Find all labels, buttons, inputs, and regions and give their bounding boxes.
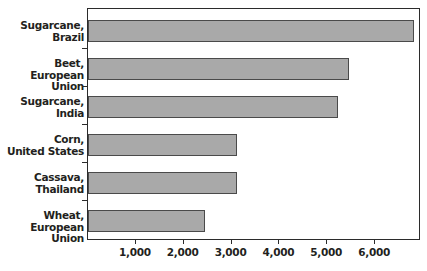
- category-label-cassava-thailand: Cassava, Thailand: [0, 172, 84, 195]
- category-label-wheat-european-union: Wheat, European Union: [0, 210, 84, 245]
- bar-beet-european-union: [88, 58, 349, 80]
- bar-sugarcane-india: [88, 96, 338, 118]
- x-axis-tick: [135, 240, 136, 244]
- bar-wheat-european-union: [88, 210, 205, 232]
- bar-corn-united-states: [88, 134, 237, 156]
- category-label-sugarcane-india: Sugarcane, India: [0, 96, 84, 119]
- bar-chart: Sugarcane, Brazil Beet, European Union S…: [0, 0, 427, 271]
- x-axis-tick: [374, 240, 375, 244]
- x-axis-tick: [278, 240, 279, 244]
- bar-cassava-thailand: [88, 172, 237, 194]
- category-label-corn-united-states: Corn, United States: [0, 134, 84, 157]
- x-axis-tick: [326, 240, 327, 244]
- x-axis-tick: [231, 240, 232, 244]
- x-axis-tick-label: 6,000: [344, 246, 404, 258]
- x-axis-tick: [183, 240, 184, 244]
- plot-area: [87, 8, 420, 240]
- bar-sugarcane-brazil: [88, 20, 414, 42]
- category-label-beet-european-union: Beet, European Union: [0, 58, 84, 93]
- category-label-sugarcane-brazil: Sugarcane, Brazil: [0, 20, 84, 43]
